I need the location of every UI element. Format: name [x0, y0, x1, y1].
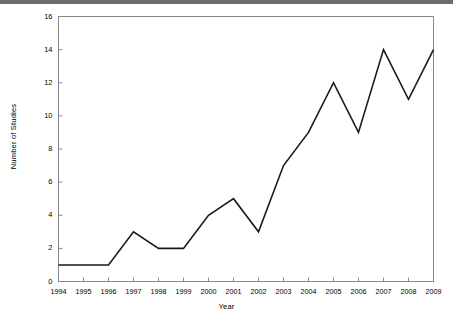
y-axis-tick-label: 10 — [27, 112, 53, 120]
x-axis-tick-label: 2009 — [419, 288, 449, 296]
y-axis-tick-label: 0 — [27, 278, 53, 286]
y-axis-tick-label: 4 — [27, 211, 53, 219]
y-axis-tick-label: 8 — [27, 145, 53, 153]
chart-figure: 0246810121416 19941995199619971998199920… — [0, 0, 453, 320]
x-axis-tick-marks — [59, 278, 434, 282]
line-chart-plot — [0, 0, 453, 320]
data-series-line — [59, 50, 434, 265]
y-axis-tick-label: 16 — [27, 13, 53, 21]
x-axis-title: Year — [0, 302, 453, 311]
y-axis-tick-label: 12 — [27, 79, 53, 87]
y-axis-tick-label: 14 — [27, 46, 53, 54]
y-axis-tick-label: 2 — [27, 244, 53, 252]
y-axis-tick-label: 6 — [27, 178, 53, 186]
y-axis-tick-marks — [59, 17, 63, 282]
plot-frame — [59, 17, 434, 282]
y-axis-title: Number of Studies — [9, 97, 18, 177]
